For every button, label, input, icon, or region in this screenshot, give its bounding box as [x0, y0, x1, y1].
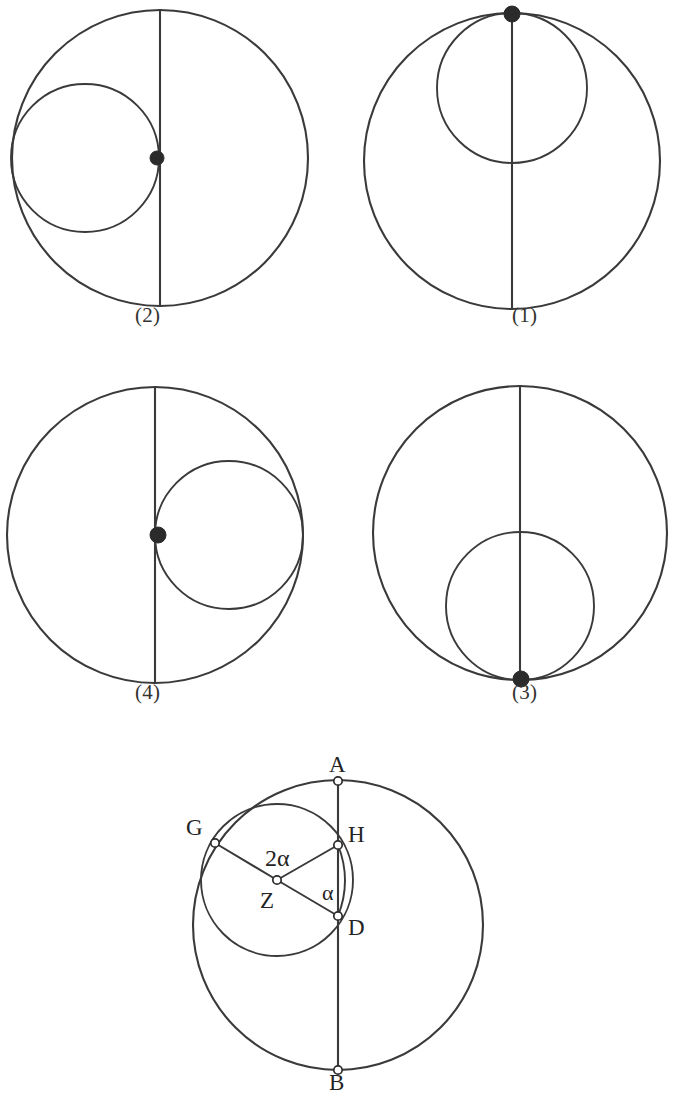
- figure-2-group: [11, 10, 308, 306]
- figure-2-inner-circle: [11, 84, 159, 232]
- point-marker-D: [334, 912, 342, 920]
- main-angle-figure-group: [193, 777, 483, 1074]
- figure-1-group: [364, 6, 660, 309]
- point-label-B: B: [329, 1070, 344, 1096]
- figure-1-tracing-point-marker: [504, 6, 520, 22]
- figure-4-inner-circle: [155, 461, 303, 609]
- figure-sheet: (2) (1) (4) (3) A B G H Z D 2α α: [0, 0, 675, 1100]
- angle-label-two-alpha: 2α: [265, 845, 290, 872]
- figure-1-caption: (1): [512, 303, 537, 328]
- point-label-Z: Z: [260, 888, 274, 914]
- point-label-D: D: [348, 915, 365, 941]
- figure-4-group: [7, 387, 303, 683]
- point-label-A: A: [329, 752, 346, 778]
- figure-4-tracing-point-marker: [150, 527, 166, 543]
- point-marker-H: [334, 841, 342, 849]
- point-marker-G: [211, 839, 219, 847]
- figure-3-group: [373, 386, 667, 687]
- figure-2-caption: (2): [135, 303, 160, 328]
- point-label-H: H: [348, 822, 365, 848]
- point-marker-Z: [273, 876, 281, 884]
- geometry-canvas: [0, 0, 675, 1100]
- angle-label-alpha: α: [322, 880, 334, 906]
- figure-4-caption: (4): [135, 680, 160, 705]
- point-label-G: G: [186, 815, 203, 841]
- figure-3-caption: (3): [512, 680, 537, 705]
- figure-2-tracing-point-marker: [150, 151, 164, 165]
- point-marker-A: [334, 777, 342, 785]
